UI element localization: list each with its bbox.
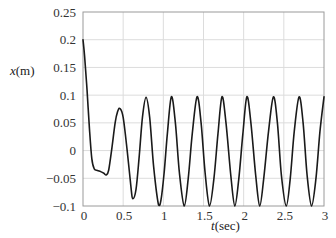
x-tick-label: 2 xyxy=(241,208,248,223)
y-axis-label: x(m) xyxy=(9,63,35,78)
y-tick-label: 0.25 xyxy=(53,5,76,20)
y-tick-label: 0.05 xyxy=(53,115,76,130)
y-tick-label: 0.1 xyxy=(60,88,76,103)
y-tick-label: 0.15 xyxy=(53,60,76,75)
y-axis-label-unit: (m) xyxy=(16,63,35,78)
x-axis-ticks: 00.511.522.53 xyxy=(81,208,329,223)
x-tick-label: 2.5 xyxy=(277,208,293,223)
x-tick-label: 0.5 xyxy=(116,208,132,223)
x-tick-label: 0 xyxy=(81,208,88,223)
y-tick-label: −0.1 xyxy=(52,199,76,214)
y-tick-label: 0.2 xyxy=(60,32,76,47)
y-axis-ticks: 0.250.20.150.10.050−0.05−0.1 xyxy=(46,5,76,214)
x-axis-label-unit: (sec) xyxy=(215,218,240,233)
x-tick-label: 3 xyxy=(322,208,329,223)
line-chart: 0.250.20.150.10.050−0.05−0.1 00.511.522.… xyxy=(0,0,336,238)
x-axis-label: t(sec) xyxy=(211,218,240,233)
y-tick-label: −0.05 xyxy=(46,171,76,186)
y-tick-label: 0 xyxy=(70,143,77,158)
x-tick-label: 1 xyxy=(161,208,168,223)
